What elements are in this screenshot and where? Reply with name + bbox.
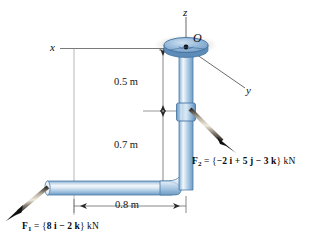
pipe-assembly-figure bbox=[0, 0, 322, 244]
force-vector-F2 bbox=[190, 109, 236, 153]
dimension-label-0-7m: 0.7 m bbox=[114, 140, 138, 151]
x-axis-label: x bbox=[50, 42, 55, 53]
force-vector-F1 bbox=[6, 187, 48, 221]
force-F2-subscript: 2 bbox=[198, 160, 202, 168]
force-F2-close-brace: } bbox=[276, 156, 281, 166]
force-F1-components: 8 i − 2 k bbox=[47, 221, 80, 231]
y-axis-label: y bbox=[246, 85, 251, 96]
force-label-F1: F1 = {8 i − 2 k} kN bbox=[22, 222, 99, 233]
force-F2-unit: kN bbox=[284, 156, 296, 166]
force-label-F2: F2 = {−2 i + 5 j − 3 k} kN bbox=[192, 157, 295, 168]
force-F1-close-brace: } bbox=[80, 221, 85, 231]
force-F2-shaft bbox=[190, 109, 222, 141]
origin-label: O bbox=[193, 32, 202, 44]
force-F2-equals: = bbox=[204, 156, 209, 166]
force-F2-components: −2 i + 5 j − 3 k bbox=[217, 156, 277, 166]
z-axis-label: z bbox=[183, 7, 187, 18]
pipe-horizontal-segment bbox=[47, 181, 172, 195]
force-F1-equals: = bbox=[34, 221, 39, 231]
force-F1-unit: kN bbox=[87, 221, 99, 231]
dimension-label-0-5m: 0.5 m bbox=[114, 77, 138, 88]
force-F1-shaft bbox=[18, 187, 48, 212]
dimension-label-0-8m: 0.8 m bbox=[115, 200, 139, 211]
force-F1-subscript: 1 bbox=[28, 225, 32, 233]
